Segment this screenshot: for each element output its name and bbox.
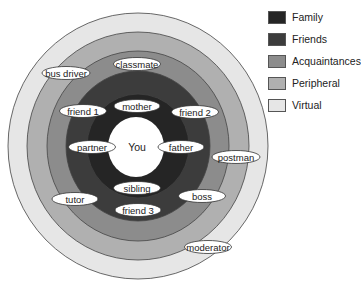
person-label: sibling <box>124 183 151 194</box>
person-label: bus driver <box>45 68 87 79</box>
legend-label: Virtual <box>292 99 322 112</box>
person-label: father <box>169 142 193 153</box>
virtual-swatch <box>268 99 286 112</box>
person-label: postman <box>218 152 254 163</box>
person-label: classmate <box>116 59 159 70</box>
person-friend-3: friend 3 <box>115 204 161 217</box>
person-father: father <box>158 141 204 154</box>
legend-item-family: Family <box>268 11 358 25</box>
person-mother: mother <box>114 100 160 113</box>
person-label: boss <box>192 191 212 202</box>
person-label: tutor <box>65 194 84 205</box>
friends-swatch <box>268 33 286 46</box>
legend-item-friends: Friends <box>268 33 358 47</box>
person-sibling: sibling <box>114 182 161 195</box>
person-friend-2: friend 2 <box>172 106 219 119</box>
person-classmate: classmate <box>114 58 161 71</box>
person-bus-driver: bus driver <box>42 67 90 80</box>
legend-item-acquaintances: Acquaintances <box>268 55 358 69</box>
person-moderator: moderator <box>185 241 232 254</box>
person-label: moderator <box>186 242 229 253</box>
person-friend-1: friend 1 <box>60 105 107 118</box>
person-tutor: tutor <box>52 193 98 206</box>
person-partner: partner <box>69 141 116 154</box>
legend-label: Acquaintances <box>292 55 361 68</box>
person-boss: boss <box>179 190 226 203</box>
person-label: mother <box>122 101 152 112</box>
acquaintances-swatch <box>268 55 286 68</box>
peripheral-swatch <box>268 77 286 90</box>
legend-item-peripheral: Peripheral <box>268 77 358 91</box>
person-label: partner <box>77 142 107 153</box>
legend-item-virtual: Virtual <box>268 99 358 113</box>
person-label: friend 1 <box>67 106 99 117</box>
person-postman: postman <box>212 151 260 164</box>
legend-label: Family <box>292 11 323 24</box>
legend-label: Friends <box>292 33 327 46</box>
family-swatch <box>268 11 286 24</box>
person-label: friend 3 <box>122 205 154 216</box>
you-label: You <box>128 141 146 153</box>
person-label: friend 2 <box>179 107 211 118</box>
legend-label: Peripheral <box>292 77 340 90</box>
